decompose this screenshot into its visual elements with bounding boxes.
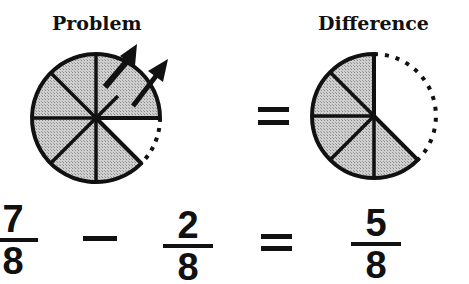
denominator: 8 bbox=[0, 244, 38, 278]
problem-pie bbox=[32, 54, 160, 182]
difference-pie bbox=[312, 54, 436, 178]
fraction-subtrahend: 2 8 bbox=[163, 208, 213, 284]
equals-sign-icon bbox=[258, 107, 289, 125]
equals-sign-icon bbox=[261, 246, 292, 251]
denominator: 8 bbox=[351, 248, 401, 282]
equals-sign-icon bbox=[261, 234, 292, 239]
denominator: 8 bbox=[163, 250, 213, 284]
numerator: 2 bbox=[163, 208, 213, 242]
numerator: 7 bbox=[0, 202, 38, 236]
fraction-result: 5 8 bbox=[351, 206, 401, 282]
numerator: 5 bbox=[351, 206, 401, 240]
minus-sign-icon bbox=[83, 236, 117, 241]
fraction-minuend: 7 8 bbox=[0, 202, 38, 278]
